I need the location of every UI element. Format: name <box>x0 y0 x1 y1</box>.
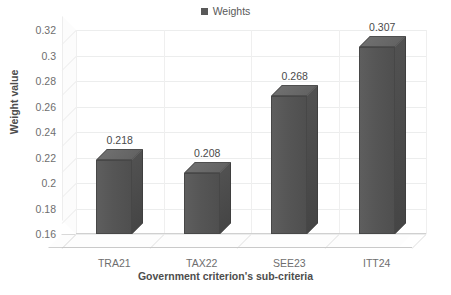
chart-legend: Weights <box>0 6 451 17</box>
bar-chart: Weights 0.320.30.280.260.240.220.20.180.… <box>0 0 451 295</box>
floor-depth-line <box>412 234 427 249</box>
y-axis-tick: 0.28 <box>36 76 56 87</box>
x-axis-line-front <box>62 247 412 248</box>
bar-side-face <box>132 149 143 234</box>
gridline-vertical <box>251 30 252 234</box>
bar-column[interactable] <box>96 160 132 234</box>
bar-value-label: 0.208 <box>177 148 237 159</box>
plot-floor <box>48 234 412 248</box>
gridline-vertical <box>339 30 340 234</box>
gridline-vertical <box>426 30 427 234</box>
bar-column[interactable] <box>184 173 220 234</box>
x-axis-title: Government criterion's sub-criteria <box>0 271 451 282</box>
bar-side-face <box>395 36 406 234</box>
y-axis-tick: 0.22 <box>36 152 56 163</box>
x-axis-tick: TAX22 <box>167 258 237 269</box>
x-axis-tick: SEE23 <box>254 258 324 269</box>
y-axis-title: Weight value <box>8 52 20 152</box>
bar-value-label: 0.307 <box>352 22 412 33</box>
bar-value-label: 0.268 <box>265 71 325 82</box>
x-axis-tick: TRA21 <box>79 258 149 269</box>
bar-value-label: 0.218 <box>90 135 150 146</box>
x-axis-tick: ITT24 <box>342 258 412 269</box>
bar-column[interactable] <box>359 47 395 234</box>
gridline-vertical <box>76 30 77 234</box>
bar-column[interactable] <box>271 96 307 234</box>
legend-swatch-icon <box>201 8 208 15</box>
legend-label-weights: Weights <box>213 6 251 17</box>
plot-area: 0.2180.2080.2680.307 <box>62 30 426 248</box>
y-axis-tick: 0.18 <box>36 203 56 214</box>
bar-side-face <box>307 85 318 234</box>
gridline-vertical <box>164 30 165 234</box>
y-axis-tick: 0.24 <box>36 127 56 138</box>
bar-front-face <box>271 96 307 234</box>
bar-front-face <box>96 160 132 234</box>
bar-front-face <box>184 173 220 234</box>
bar-side-face <box>220 162 231 234</box>
y-axis-tick: 0.3 <box>41 50 56 61</box>
y-axis-tick: 0.32 <box>36 25 56 36</box>
y-axis-tick: 0.2 <box>41 178 56 189</box>
y-axis-tick: 0.16 <box>36 229 56 240</box>
y-axis-tick: 0.26 <box>36 101 56 112</box>
plot-side-wall <box>62 16 76 234</box>
bar-front-face <box>359 47 395 234</box>
